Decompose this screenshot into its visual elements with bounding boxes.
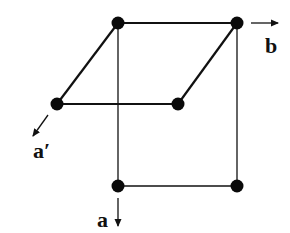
parallelogram-face: [57, 23, 237, 104]
node-bottom-left: [112, 180, 125, 193]
edge-right-diagonal: [178, 23, 237, 104]
node-mid-left: [51, 98, 64, 111]
axis-a: a: [97, 198, 118, 232]
node-bottom-right: [231, 180, 244, 193]
axis-a-prime: a′: [33, 115, 50, 163]
lattice-diagram: b a′ a: [0, 0, 290, 233]
axis-label-a: a: [97, 207, 108, 232]
axis-b: b: [251, 23, 278, 58]
edge-left-diagonal: [57, 23, 118, 104]
axis-label-a-prime: a′: [33, 138, 50, 163]
node-top-right: [231, 17, 244, 30]
node-top-left: [112, 17, 125, 30]
axis-label-b: b: [265, 33, 277, 58]
arrow-down-left-icon: [33, 115, 48, 136]
node-mid-right: [172, 98, 185, 111]
